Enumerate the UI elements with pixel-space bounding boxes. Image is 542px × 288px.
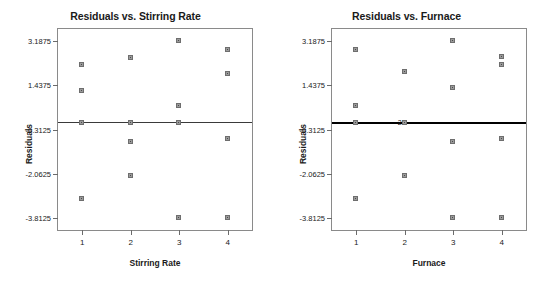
data-point — [450, 85, 455, 90]
data-point — [176, 103, 181, 108]
data-point — [499, 54, 504, 59]
data-point — [225, 47, 230, 52]
y-axis-tick — [327, 218, 332, 219]
y-axis-tick — [327, 174, 332, 175]
data-point — [353, 47, 358, 52]
data-point — [450, 139, 455, 144]
chart-title: Residuals vs. Stirring Rate — [0, 10, 271, 22]
data-point — [79, 196, 84, 201]
y-axis-tick-label: 3.1875 — [28, 36, 51, 45]
y-axis-tick-label: 3.1875 — [302, 36, 325, 45]
x-axis-tick — [131, 230, 132, 235]
data-point — [225, 215, 230, 220]
x-axis-tick — [356, 230, 357, 235]
y-axis-tick-label: -0.3125 — [300, 125, 325, 134]
data-point — [499, 215, 504, 220]
data-point — [176, 38, 181, 43]
x-axis-tick — [405, 230, 406, 235]
plot-area: 3.18751.4375-0.3125-2.0625-3.81251234 — [57, 28, 253, 231]
x-axis-label: Stirring Rate — [57, 258, 253, 268]
x-axis-tick — [502, 230, 503, 235]
x-axis-tick — [453, 230, 454, 235]
x-axis-tick-label: 2 — [129, 238, 133, 247]
data-point — [499, 62, 504, 67]
y-axis-tick — [53, 174, 58, 175]
data-point — [176, 215, 181, 220]
x-axis-tick-label: 1 — [354, 238, 358, 247]
data-point — [225, 136, 230, 141]
x-axis-tick-label: 4 — [226, 238, 230, 247]
data-point — [225, 71, 230, 76]
y-axis-tick-label: -2.0625 — [26, 169, 51, 178]
data-point — [450, 38, 455, 43]
x-axis-tick — [82, 230, 83, 235]
y-axis-tick — [327, 41, 332, 42]
y-axis-tick-label: -0.3125 — [26, 125, 51, 134]
y-axis-tick-label: 1.4375 — [302, 81, 325, 90]
data-point — [402, 69, 407, 74]
data-point — [128, 173, 133, 178]
x-axis-tick-label: 3 — [451, 238, 455, 247]
y-axis-tick — [327, 130, 332, 131]
data-point — [128, 120, 133, 125]
x-axis-tick-label: 4 — [500, 238, 504, 247]
data-point — [79, 62, 84, 67]
y-axis-tick-label: -3.8125 — [26, 214, 51, 223]
y-axis-tick — [53, 218, 58, 219]
residual-plots-figure: Residuals vs. Stirring Rate Residuals 3.… — [0, 0, 542, 288]
x-axis-label: Furnace — [331, 258, 527, 268]
data-point — [499, 136, 504, 141]
x-axis-tick-label: 3 — [177, 238, 181, 247]
data-point — [79, 88, 84, 93]
zero-reference-line — [58, 122, 252, 123]
data-point — [450, 215, 455, 220]
x-axis-tick — [228, 230, 229, 235]
data-point — [176, 120, 181, 125]
y-axis-tick-label: -2.0625 — [300, 169, 325, 178]
x-axis-tick-label: 2 — [403, 238, 407, 247]
data-point — [128, 139, 133, 144]
y-axis-tick — [53, 130, 58, 131]
y-axis-tick — [53, 85, 58, 86]
panel-residuals-vs-stirring-rate: Residuals vs. Stirring Rate Residuals 3.… — [0, 0, 271, 288]
data-point — [128, 55, 133, 60]
x-axis-tick — [179, 230, 180, 235]
y-axis-tick-label: 1.4375 — [28, 81, 51, 90]
chart-title: Residuals vs. Furnace — [271, 10, 542, 22]
data-point — [402, 173, 407, 178]
y-axis-tick — [53, 41, 58, 42]
data-point — [353, 196, 358, 201]
panel-residuals-vs-furnace: Residuals vs. Furnace Residuals 3.18751.… — [271, 0, 542, 288]
y-axis-tick — [327, 85, 332, 86]
data-point — [402, 120, 407, 125]
data-point — [353, 103, 358, 108]
x-axis-tick-label: 1 — [80, 238, 84, 247]
zero-reference-line — [332, 122, 526, 124]
y-axis-tick-label: -3.8125 — [300, 214, 325, 223]
data-point — [79, 120, 84, 125]
data-point — [353, 120, 358, 125]
plot-area: 3.18751.4375-0.3125-2.0625-3.812512342 — [331, 28, 527, 231]
overlap-count-annotation: 2 — [398, 118, 402, 125]
